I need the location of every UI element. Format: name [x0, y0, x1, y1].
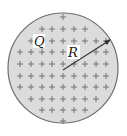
charge-label: Q [34, 34, 45, 49]
radius-label: R [67, 45, 78, 60]
charged-sphere-diagram: Q R [0, 0, 127, 136]
